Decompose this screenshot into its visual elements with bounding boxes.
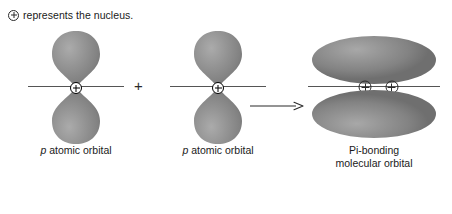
p-orbital-2-label: p atomic orbital [148, 144, 288, 157]
pi-molecular-orbital-label-line1: Pi-bonding [300, 144, 448, 157]
figure-caption: represents the nucleus. [8, 9, 133, 21]
p-orbital-1-art [6, 30, 146, 142]
p-orbital-lower-lobe [48, 87, 104, 145]
pi-molecular-orbital-label-line2: molecular orbital [300, 157, 448, 170]
pi-molecular-orbital-art [300, 30, 448, 142]
orbital-axis-line [308, 86, 440, 87]
mo-upper-lobe [312, 36, 436, 84]
nucleus-plus-circle-icon [70, 82, 82, 94]
p-orbital-1-label: p atomic orbital [6, 144, 146, 157]
p-orbital-1-nucleus [70, 80, 82, 92]
plus-operator: + [134, 78, 143, 93]
p-orbital-1-label-text: atomic orbital [46, 144, 111, 156]
mo-lower-lobe [312, 90, 436, 138]
nucleus-plus-circle-icon [8, 10, 19, 21]
pi-molecular-orbital-panel: Pi-bonding molecular orbital [300, 30, 448, 180]
caption-text: represents the nucleus. [23, 9, 133, 21]
p-orbital-2-art [148, 30, 288, 142]
nucleus-plus-circle-icon [212, 82, 224, 94]
p-orbital-2-label-text: atomic orbital [188, 144, 253, 156]
p-orbital-1-panel: p atomic orbital [6, 30, 146, 180]
p-orbital-2-nucleus [212, 80, 224, 92]
p-orbital-lower-lobe [190, 87, 246, 145]
pi-molecular-orbital-label: Pi-bonding molecular orbital [300, 144, 448, 170]
pi-bonding-orbital-diagram: represents the nucleus. [0, 0, 452, 214]
arrow-right-icon [250, 100, 304, 112]
